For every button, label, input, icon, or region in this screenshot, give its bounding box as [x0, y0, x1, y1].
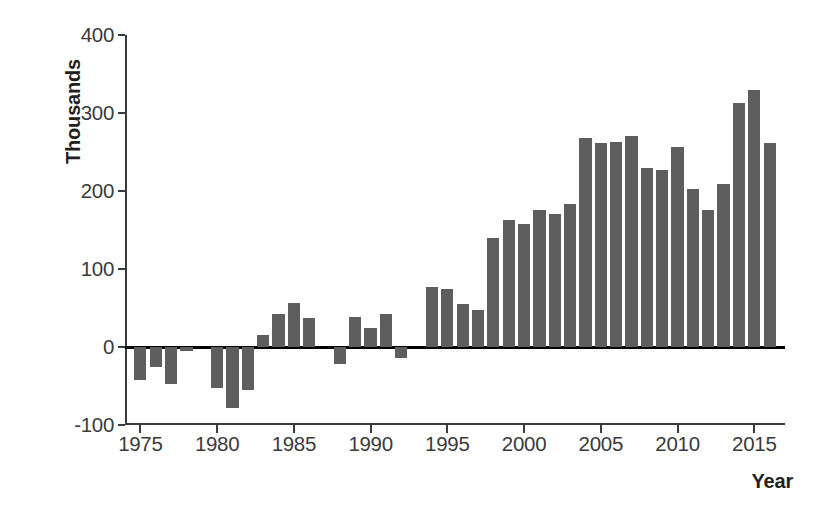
x-axis-tick-label: 1990 — [348, 432, 392, 456]
bar — [641, 168, 653, 347]
bar — [134, 347, 146, 380]
x-axis-tick-label: 1995 — [425, 432, 469, 456]
bar — [441, 289, 453, 347]
bar — [748, 90, 760, 347]
bar — [687, 189, 699, 347]
y-axis-tick-label: 100 — [40, 257, 114, 281]
bar — [364, 328, 376, 348]
bar — [180, 347, 192, 351]
bar — [717, 184, 729, 347]
bar — [150, 347, 162, 367]
bar — [764, 143, 776, 347]
bar — [303, 318, 315, 347]
bar — [503, 220, 515, 347]
y-axis-tick-mark — [118, 424, 125, 426]
y-axis-tick-mark — [118, 112, 125, 114]
y-axis-tick-label: -100 — [40, 413, 114, 437]
bar-chart: Thousands 4003002001000-100 197519801985… — [0, 0, 813, 521]
bar — [211, 347, 223, 388]
x-axis-tick-label: 2000 — [502, 432, 546, 456]
y-axis-tick-mark — [118, 34, 125, 36]
bar — [533, 210, 545, 347]
bar — [426, 287, 438, 347]
bar — [579, 138, 591, 347]
x-axis-tick-label: 2005 — [579, 432, 623, 456]
bar — [610, 142, 622, 347]
bar — [564, 204, 576, 347]
bar — [487, 238, 499, 347]
x-axis-title: Year — [752, 470, 793, 493]
y-axis-tick-label: 0 — [40, 335, 114, 359]
bar — [349, 317, 361, 347]
bar — [288, 303, 300, 347]
bar — [549, 214, 561, 347]
x-axis-tick-label: 2010 — [655, 432, 699, 456]
y-axis-tick-label: 300 — [40, 101, 114, 125]
y-axis-tick-label: 200 — [40, 179, 114, 203]
y-axis-tick-mark — [118, 268, 125, 270]
y-axis-tick-labels: 4003002001000-100 — [32, 0, 114, 521]
bar — [242, 347, 254, 390]
x-axis-tick-label: 1975 — [118, 432, 162, 456]
bar — [472, 310, 484, 347]
bar — [625, 136, 637, 347]
y-axis-tick-label: 400 — [40, 23, 114, 47]
bar — [733, 103, 745, 347]
y-axis-line — [125, 35, 127, 425]
x-axis-tick-label: 1980 — [195, 432, 239, 456]
bar — [380, 314, 392, 347]
bar — [518, 224, 530, 347]
x-axis-line — [125, 423, 785, 425]
bar — [395, 347, 407, 358]
x-axis-tick-label: 1985 — [272, 432, 316, 456]
bar — [702, 210, 714, 347]
x-axis-tick-label: 2015 — [732, 432, 776, 456]
bar — [457, 304, 469, 347]
bar — [671, 147, 683, 347]
bar — [257, 335, 269, 347]
bar — [272, 314, 284, 347]
bar — [165, 347, 177, 384]
y-axis-tick-mark — [118, 190, 125, 192]
bar — [226, 347, 238, 408]
bar — [656, 170, 668, 347]
plot-area — [125, 35, 785, 425]
y-axis-tick-mark — [118, 346, 125, 348]
bar — [595, 143, 607, 347]
bar — [334, 347, 346, 364]
